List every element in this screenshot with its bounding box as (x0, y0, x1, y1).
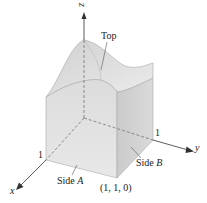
z-arrow-icon (82, 12, 87, 19)
z-axis-label: z (77, 3, 87, 7)
y-tick-label: 1 (155, 128, 160, 138)
corner-point-label: (1, 1, 0) (100, 183, 132, 193)
x-axis-label: x (10, 186, 14, 196)
side-a-label: Side A (57, 176, 83, 186)
y-axis-label: y (195, 143, 199, 153)
y-axis (153, 140, 188, 150)
y-arrow-icon (186, 147, 195, 154)
side-b-label: Side B (136, 158, 162, 168)
side-b-letter: B (156, 157, 162, 168)
side-a-letter: A (77, 175, 83, 186)
x-tick-label: 1 (38, 150, 43, 160)
side-a-face (46, 80, 117, 179)
side-b-word: Side (136, 157, 154, 168)
side-a-word: Side (57, 175, 75, 186)
x-axis (20, 160, 46, 186)
top-label: Top (101, 31, 116, 41)
